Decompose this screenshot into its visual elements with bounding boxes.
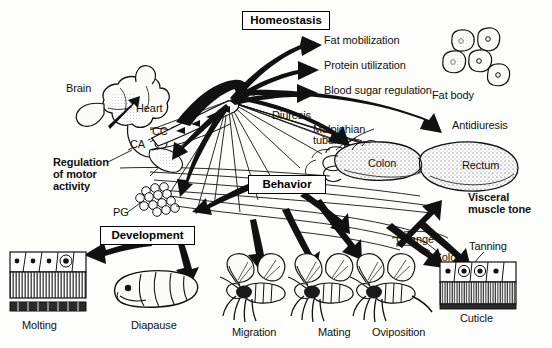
label-regulation-motor-activity-line3: activity [53, 181, 90, 193]
label-box-behavior: Behavior [248, 175, 326, 194]
cuticle-illustration [440, 262, 516, 309]
label-visceral-muscle-tone-line2: muscle tone [468, 204, 531, 216]
label-oviposition: Oviposition [372, 327, 425, 339]
label-heart: Heart [136, 103, 162, 115]
label-diuresis: Diuresis [272, 110, 311, 122]
diapause-illustration [115, 271, 198, 308]
label-malpighian-tubules-line2: tubules [313, 135, 348, 147]
label-color: Color [434, 252, 460, 264]
label-prothoracic-gland: PG [113, 207, 129, 219]
label-visceral-muscle-tone-line1: Visceral [468, 192, 509, 204]
label-colon: Colon [368, 158, 396, 170]
label-mating: Mating [318, 327, 350, 339]
molting-illustration [10, 252, 86, 311]
label-box-homeostasis: Homeostasis [242, 11, 330, 30]
label-rectum: Rectum [462, 160, 499, 172]
label-diapause: Diapause [131, 320, 177, 332]
label-migration: Migration [232, 327, 276, 339]
oviposition-moth-illustration [350, 254, 432, 322]
label-protein-utilization: Protein utilization [324, 60, 406, 72]
label-fat-body: Fat body [432, 90, 474, 102]
label-corpus-allatum: CA [130, 139, 145, 151]
label-brain: Brain [66, 83, 91, 95]
label-box-development: Development [100, 226, 195, 245]
fat-body-illustration [443, 28, 510, 86]
label-tanning: Tanning [469, 241, 507, 253]
arrow-colon-action [300, 192, 350, 234]
label-blood-sugar-regulation: Blood sugar regulation [324, 85, 432, 97]
label-molting: Molting [22, 320, 57, 332]
label-change: Change [396, 234, 434, 246]
label-corpus-cardiacum: CC [152, 126, 168, 138]
label-fat-mobilization: Fat mobilization [324, 35, 399, 47]
label-regulation-motor-activity-line2: of motor [53, 169, 97, 181]
arrow-behavior-feedback [192, 184, 250, 215]
label-cuticle: Cuticle [460, 313, 493, 325]
label-antidiuresis: Antidiuresis [452, 120, 508, 132]
mating-moth-illustration [288, 254, 353, 322]
neuroendocrine-diagram: Homeostasis Behavior Development Fat mob… [0, 0, 552, 348]
label-regulation-motor-activity-line1: Regulation [53, 157, 109, 169]
migration-moth-illustration [220, 254, 285, 322]
